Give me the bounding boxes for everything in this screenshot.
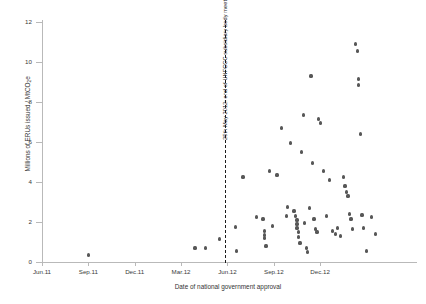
y-axis-tick-label: 12 (6, 18, 32, 25)
x-axis-tick-label: Dec.12 (297, 268, 343, 275)
data-point (360, 213, 363, 216)
data-point (295, 222, 298, 225)
data-point (295, 226, 298, 229)
data-point (349, 217, 352, 220)
data-point (303, 221, 306, 224)
x-axis-title: Date of national government approval (0, 283, 426, 290)
y-axis-tick (36, 142, 42, 143)
data-point (193, 246, 196, 249)
plot-area (42, 22, 416, 262)
y-axis-title-text: Millions of ERUs issued / MtCO (24, 82, 31, 171)
data-point (346, 194, 349, 197)
y-axis-tick-label: 4 (6, 178, 32, 185)
x-axis-tick-label: Mar.12 (158, 268, 204, 275)
data-point (235, 249, 238, 252)
data-point (298, 241, 301, 244)
x-axis-tick-label: Jun.12 (204, 268, 250, 275)
data-point (365, 249, 368, 252)
data-point (234, 225, 237, 228)
y-axis-tick-label: 10 (6, 58, 32, 65)
scatter-chart-figure: Millions of ERUs issued / MtCO2e Date of… (0, 0, 426, 304)
y-axis-title-subscript: 2 (27, 80, 32, 83)
data-point (345, 190, 348, 193)
data-point (302, 113, 305, 116)
data-point (325, 214, 328, 217)
y-axis-tick (36, 62, 42, 63)
data-point (297, 230, 300, 233)
x-axis-tick (135, 262, 136, 266)
data-point (339, 234, 342, 237)
data-point (311, 161, 314, 164)
data-point (354, 42, 357, 45)
data-point (292, 209, 295, 212)
data-point (218, 237, 221, 240)
event-annotation-label: 25th May 2012: end of UNFCCC subsidiary … (222, 0, 228, 140)
data-point (315, 230, 318, 233)
data-point (305, 246, 308, 249)
data-point (261, 217, 264, 220)
y-axis-tick-label: 2 (6, 218, 32, 225)
data-point (359, 132, 362, 135)
y-axis-tick (36, 182, 42, 183)
data-point (295, 218, 298, 221)
x-axis-tick-label: Dec.11 (112, 268, 158, 275)
data-point (342, 175, 345, 178)
data-point (300, 150, 303, 153)
y-axis-tick-label: 8 (6, 98, 32, 105)
x-axis-tick (42, 262, 43, 266)
data-point (264, 244, 267, 247)
y-axis-tick (36, 222, 42, 223)
data-point (351, 227, 354, 230)
y-axis-tick-label: 6 (6, 138, 32, 145)
x-axis-tick (320, 262, 321, 266)
y-axis-tick (36, 102, 42, 103)
data-point (285, 214, 288, 217)
data-point (343, 184, 346, 187)
data-point (241, 175, 244, 178)
data-point (328, 178, 331, 181)
y-axis-tick-label: 0 (6, 258, 32, 265)
y-axis-tick (36, 22, 42, 23)
data-point (322, 169, 325, 172)
data-point (348, 212, 351, 215)
data-point (271, 224, 274, 227)
x-axis-tick-label: Jun.11 (19, 268, 65, 275)
data-point (309, 74, 312, 77)
x-axis-tick (227, 262, 228, 266)
data-point (319, 121, 322, 124)
x-axis-tick (88, 262, 89, 266)
data-point (308, 206, 311, 209)
data-point (297, 235, 300, 238)
data-point (370, 215, 373, 218)
data-point (87, 253, 90, 256)
x-axis-tick (274, 262, 275, 266)
data-point (263, 229, 266, 232)
data-point (280, 126, 283, 129)
data-point (317, 117, 320, 120)
y-axis-title-suffix: e (24, 76, 31, 80)
x-axis-line (41, 262, 417, 263)
data-point (356, 49, 359, 52)
data-point (336, 226, 339, 229)
data-point (334, 232, 337, 235)
data-point (275, 173, 278, 176)
x-axis-tick-label: Sep.11 (65, 268, 111, 275)
data-point (362, 226, 365, 229)
data-point (312, 217, 315, 220)
data-point (263, 236, 266, 239)
x-axis-tick (181, 262, 182, 266)
x-axis-tick-label: Sep.12 (251, 268, 297, 275)
data-point (268, 169, 271, 172)
data-point (286, 205, 289, 208)
data-point (294, 214, 297, 217)
